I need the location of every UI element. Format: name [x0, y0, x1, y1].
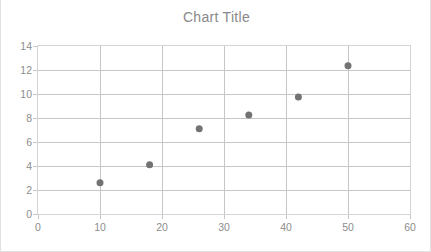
- data-point-marker[interactable]: [345, 62, 352, 69]
- data-point-marker[interactable]: [295, 94, 302, 101]
- data-point-marker[interactable]: [97, 179, 104, 186]
- data-point-marker[interactable]: [245, 112, 252, 119]
- plot-area[interactable]: [37, 45, 411, 215]
- chart-container[interactable]: Chart Title 02468101214 0102030405060: [0, 0, 431, 252]
- data-point-marker[interactable]: [196, 125, 203, 132]
- data-point-marker[interactable]: [146, 161, 153, 168]
- scatter-plot-canvas: [38, 46, 410, 214]
